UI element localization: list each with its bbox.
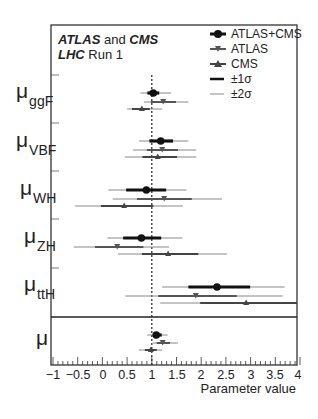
x-tick-label: 3: [248, 368, 255, 382]
x-tick-label: −0.5: [66, 368, 91, 382]
x-tick-label: 3.5: [266, 368, 283, 382]
x-tick-label: 0: [100, 368, 107, 382]
x-tick-label: 0.5: [118, 368, 135, 382]
circle-marker-icon: [208, 28, 228, 40]
y-label-mu: μ: [36, 326, 48, 350]
chart-title-line1: ATLAS and CMS: [58, 32, 158, 47]
triangle-up-marker-icon: [208, 58, 228, 70]
y-label-ggf: μggF: [16, 79, 53, 109]
chart-canvas: [0, 0, 318, 419]
thick-line-icon: [208, 73, 228, 85]
x-tick-label: 1: [149, 368, 156, 382]
x-tick-label: 1.5: [168, 368, 185, 382]
x-axis-ticks: [53, 357, 300, 365]
y-label-wh: μWH: [20, 176, 56, 206]
y-label-tth: μttH: [24, 272, 55, 302]
legend-item-1sigma: ±1σ: [208, 72, 252, 86]
legend-item-atlas: ATLAS: [208, 42, 268, 56]
legend-item-cms: CMS: [208, 57, 258, 71]
triangle-down-marker-icon: [208, 43, 228, 55]
thin-line-icon: [208, 88, 228, 100]
chart-title-line2: LHC Run 1: [58, 47, 123, 62]
legend-item-combined: ATLAS+CMS: [208, 27, 302, 41]
data-points: [74, 89, 297, 352]
x-tick-label: 4: [295, 368, 302, 382]
plot-frame: [51, 25, 297, 365]
y-label-vbf: μVBF: [16, 128, 56, 158]
x-tick-label: 2.5: [217, 368, 234, 382]
x-tick-label: 2: [198, 368, 205, 382]
y-label-zh: μZH: [24, 224, 56, 254]
legend-item-2sigma: ±2σ: [208, 87, 252, 101]
x-axis-label: Parameter value: [201, 381, 296, 396]
x-tick-label: −1: [46, 368, 60, 382]
